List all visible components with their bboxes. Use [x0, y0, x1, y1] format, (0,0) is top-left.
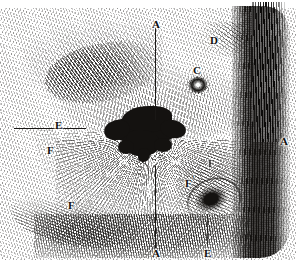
leader-a-lower [155, 166, 156, 248]
label-c: C [193, 65, 201, 76]
label-e-left: E [55, 120, 62, 131]
label-f-upper-left: F [47, 145, 54, 156]
central-dark-orifice [104, 104, 190, 160]
label-f-lower-left: F [68, 200, 75, 211]
label-e-bottom: E [204, 248, 211, 259]
label-f-prime: F' [185, 175, 194, 189]
engraving-plate: A D C E A F F F' F A E [0, 0, 296, 268]
left-radiating-striations [36, 128, 166, 220]
label-f-prime-letter: F [185, 177, 192, 189]
upper-right-hatching [196, 22, 250, 56]
right-dark-hatched-band [232, 6, 290, 258]
label-d: D [210, 35, 218, 46]
lower-left-crescent-limb [7, 179, 144, 255]
central-radiating-striations [56, 140, 236, 244]
label-f-right: F [208, 158, 215, 169]
label-a-bottom: A [152, 248, 160, 259]
upper-left-dark-fold [40, 36, 158, 110]
leader-a-upper [155, 28, 156, 120]
nodule-pore [188, 76, 208, 94]
lower-right-lobe-aperture [190, 181, 231, 218]
specimen-hatching [0, 8, 296, 260]
upper-left-hatch-flare [22, 16, 162, 86]
leader-e-horizontal [14, 128, 86, 129]
label-a-top: A [152, 19, 160, 30]
right-dark-hatched-band-core [252, 2, 286, 142]
label-f-prime-mark: ' [192, 174, 195, 184]
leader-e-bottom [207, 214, 208, 246]
label-a-right: A [280, 136, 288, 147]
lower-hatched-band [34, 214, 250, 258]
